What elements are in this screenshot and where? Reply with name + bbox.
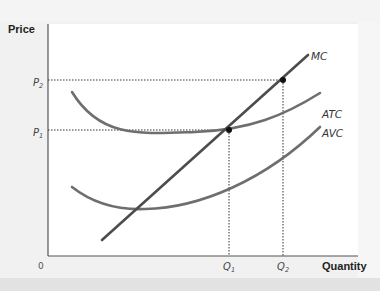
atc-label: ATC <box>321 108 343 120</box>
point-q2-p2 <box>280 77 286 83</box>
cost-curves-chart: Price Quantity 0 P2 P1 Q1 Q2 MC ATC AVC <box>0 0 380 291</box>
y-axis-title: Price <box>8 23 35 35</box>
point-q1-p1 <box>226 127 232 133</box>
mc-label: MC <box>311 50 328 62</box>
p2-label: P2 <box>33 77 43 90</box>
origin-label: 0 <box>38 261 44 271</box>
p1-label: P1 <box>33 127 43 140</box>
q1-label: Q1 <box>223 261 235 274</box>
x-axis-title: Quantity <box>322 260 367 272</box>
q2-label: Q2 <box>277 261 289 274</box>
avc-label: AVC <box>321 127 344 139</box>
